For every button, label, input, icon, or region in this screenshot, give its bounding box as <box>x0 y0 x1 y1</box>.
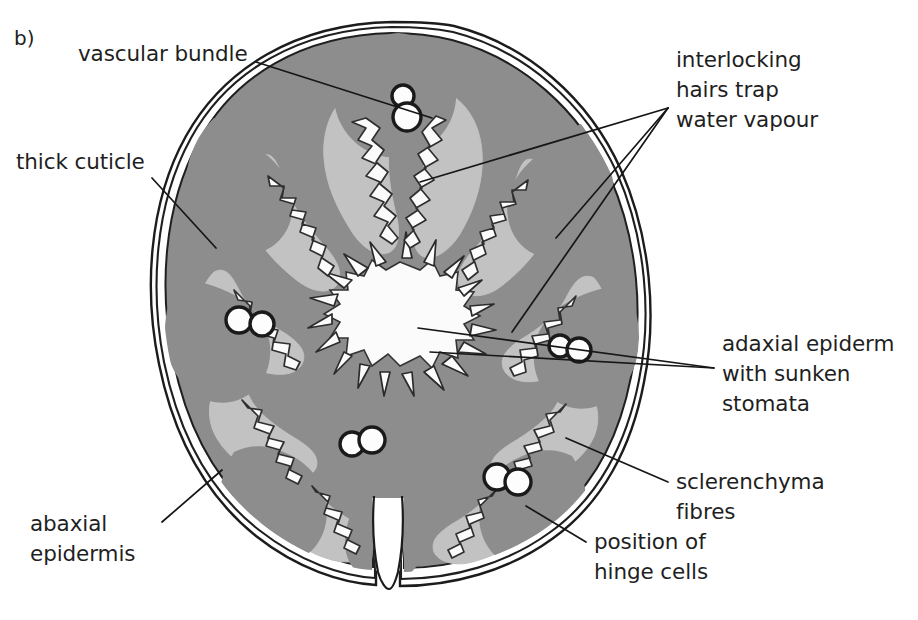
label-abaxial-epidermis-line2: epidermis <box>30 540 135 568</box>
label-adaxial-epidermis-line2: with sunken <box>722 360 850 388</box>
label-vascular-bundle: vascular bundle <box>78 40 248 68</box>
central-cavity <box>324 260 480 368</box>
leaf-body <box>151 22 651 589</box>
figure-canvas: b) vascular bundle thick cuticle interlo… <box>0 0 918 620</box>
label-interlocking-hairs-line3: water vapour <box>676 106 818 134</box>
label-abaxial-epidermis-line1: abaxial <box>30 510 107 538</box>
label-position-of-hinge-cells-line2: hinge cells <box>594 558 708 586</box>
leader-abaxial-epidermis <box>162 470 222 522</box>
label-position-of-hinge-cells-line1: position of <box>594 528 706 556</box>
label-interlocking-hairs-line1: interlocking <box>676 46 802 74</box>
vascular-bundle <box>484 464 531 495</box>
leaf-cross-section-diagram <box>0 0 918 620</box>
label-interlocking-hairs-line2: hairs trap <box>676 76 779 104</box>
label-sclerenchyma-fibres-line2: fibres <box>676 498 735 526</box>
label-sclerenchyma-fibres-line1: sclerenchyma <box>676 468 825 496</box>
label-adaxial-epidermis-line3: stomata <box>722 390 810 418</box>
label-thick-cuticle: thick cuticle <box>16 148 145 176</box>
vascular-bundle <box>340 427 385 456</box>
label-adaxial-epidermis-line1: adaxial epiderm <box>722 330 894 358</box>
panel-letter: b) <box>14 26 35 50</box>
